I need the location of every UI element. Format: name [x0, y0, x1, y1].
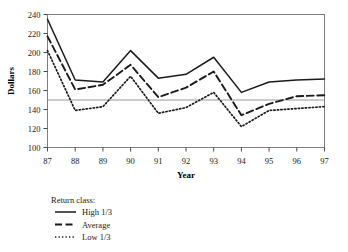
x-tick-label-95: 95 — [265, 156, 274, 166]
x-tick-label-91: 91 — [154, 156, 163, 166]
legend-title: Return class: — [51, 195, 95, 205]
x-tick-label-97: 97 — [320, 156, 329, 166]
chart-background — [0, 0, 348, 252]
x-tick-label-87: 87 — [43, 156, 52, 166]
y-tick-label-180: 180 — [28, 67, 41, 77]
x-tick-label-90: 90 — [126, 156, 135, 166]
chart-figure: 100120140160180200220240 878889909192939… — [0, 0, 348, 252]
y-tick-label-220: 220 — [28, 29, 41, 39]
y-tick-label-120: 120 — [28, 124, 41, 134]
y-tick-label-240: 240 — [28, 10, 41, 20]
y-tick-label-200: 200 — [28, 48, 41, 58]
line-chart: 100120140160180200220240 878889909192939… — [0, 0, 348, 252]
legend-label-high-1-3: High 1/3 — [82, 207, 112, 217]
x-tick-label-96: 96 — [293, 156, 302, 166]
x-tick-label-92: 92 — [182, 156, 191, 166]
x-axis-title: Year — [177, 170, 195, 180]
y-tick-label-100: 100 — [28, 143, 41, 153]
legend-label-low-1-3: Low 1/3 — [82, 232, 111, 242]
legend-label-average: Average — [82, 220, 110, 230]
x-tick-label-93: 93 — [209, 156, 218, 166]
x-tick-label-89: 89 — [99, 156, 108, 166]
x-tick-label-94: 94 — [237, 156, 246, 166]
x-tick-label-88: 88 — [71, 156, 80, 166]
y-tick-label-160: 160 — [28, 86, 41, 96]
y-axis-title: Dollars — [6, 67, 16, 95]
y-tick-label-140: 140 — [28, 105, 41, 115]
